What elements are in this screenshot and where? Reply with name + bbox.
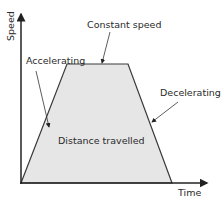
- x-axis-label: Time: [178, 188, 201, 198]
- constant-speed-arrow: [102, 32, 110, 63]
- decelerating-arrow: [152, 102, 178, 122]
- distance-area: [21, 64, 172, 183]
- distance-travelled-label: Distance travelled: [58, 136, 145, 146]
- accelerating-arrow: [36, 71, 49, 127]
- decelerating-label: Decelerating: [160, 88, 221, 98]
- speed-time-graph: [0, 0, 221, 202]
- constant-speed-label: Constant speed: [87, 20, 161, 30]
- accelerating-label: Accelerating: [26, 56, 85, 66]
- y-axis-label: Speed: [6, 11, 16, 41]
